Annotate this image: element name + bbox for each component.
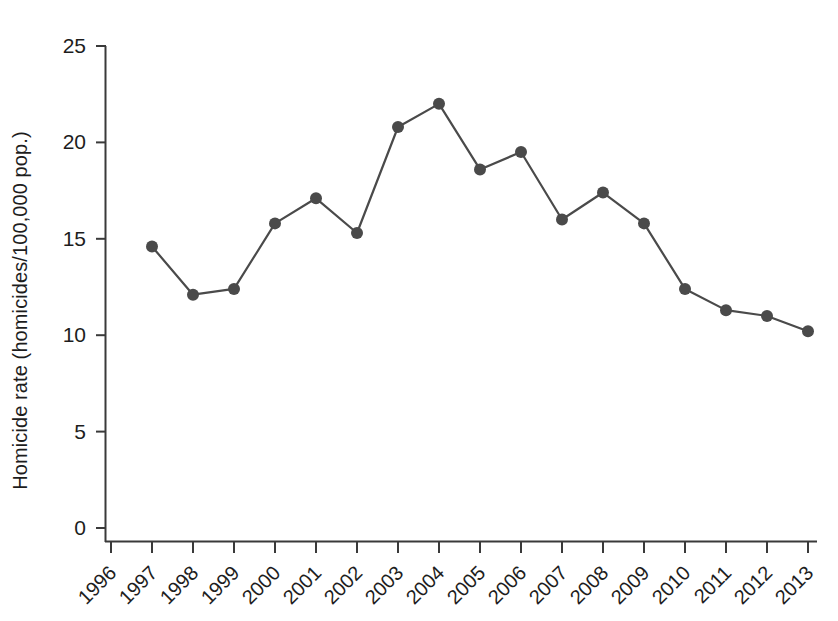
data-point-marker <box>802 325 814 337</box>
x-axis-tick-marks <box>111 542 808 553</box>
y-tick-label: 5 <box>42 420 86 444</box>
data-point-marker <box>228 283 240 295</box>
data-point-marker <box>720 304 732 316</box>
data-point-marker <box>474 163 486 175</box>
y-tick-label: 0 <box>42 516 86 540</box>
axis-lines <box>105 46 817 542</box>
data-point-marker <box>269 217 281 229</box>
y-tick-label: 25 <box>42 34 86 58</box>
data-point-marker <box>433 98 445 110</box>
data-point-marker <box>679 283 691 295</box>
data-point-marker <box>392 121 404 133</box>
data-point-marker <box>351 227 363 239</box>
data-point-marker <box>515 146 527 158</box>
series-polyline <box>152 104 808 332</box>
y-tick-label: 10 <box>42 323 86 347</box>
data-point-markers <box>146 98 814 338</box>
plot-canvas <box>0 0 838 621</box>
data-point-marker <box>310 192 322 204</box>
chart-figure: Homicide rate (homicides/100,000 pop.) 0… <box>0 0 838 621</box>
data-point-marker <box>187 289 199 301</box>
data-point-marker <box>597 187 609 199</box>
data-point-marker <box>556 214 568 226</box>
data-point-marker <box>761 310 773 322</box>
data-point-marker <box>146 241 158 253</box>
data-series-line <box>152 104 808 332</box>
y-tick-label: 15 <box>42 227 86 251</box>
y-tick-label: 20 <box>42 130 86 154</box>
data-point-marker <box>638 217 650 229</box>
